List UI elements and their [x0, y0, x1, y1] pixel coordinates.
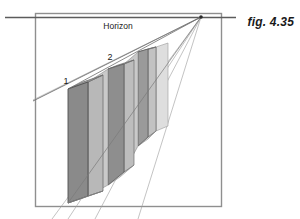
box-label-1: 1	[63, 76, 68, 86]
vanishing-point-marker	[199, 15, 203, 19]
box-3-side-face	[148, 47, 156, 137]
perspective-diagram: Horizon 1 2	[0, 0, 300, 219]
box-3	[138, 47, 156, 146]
figure-caption: fig. 4.35	[248, 15, 294, 29]
figure-container: Horizon 1 2 fig. 4.35	[0, 0, 300, 219]
box-1-side-face	[88, 75, 103, 196]
box-label-2: 2	[107, 52, 112, 62]
box-2-front-face	[108, 64, 124, 185]
box-3-front-face	[138, 49, 148, 146]
box-2	[108, 60, 134, 185]
box-1	[68, 75, 103, 203]
box-2-side-face	[124, 60, 134, 172]
box-1-front-face	[68, 82, 88, 203]
horizon-label: Horizon	[103, 21, 133, 31]
